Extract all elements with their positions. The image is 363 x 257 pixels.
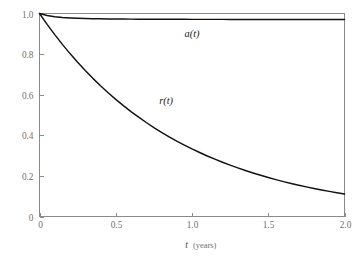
x-tick-label: 2.0	[340, 220, 352, 230]
y-tick-label: 0.6	[22, 91, 34, 101]
chart-background	[0, 0, 363, 257]
curve-label-rt: r(t)	[159, 95, 173, 107]
x-tick-label: 0	[38, 220, 43, 230]
y-tick-label: 1.0	[22, 10, 34, 20]
x-tick-label: 0.5	[111, 220, 123, 230]
y-tick-label: 0.2	[22, 172, 34, 182]
y-tick-label: 0.8	[22, 50, 34, 60]
curve-label-at: a(t)	[184, 28, 200, 40]
chart-figure: 00.20.40.60.81.0 00.51.01.52.0 a(t)r(t) …	[0, 0, 363, 257]
x-axis-unit: (years)	[193, 241, 216, 250]
decay-curves-chart: 00.20.40.60.81.0 00.51.01.52.0 a(t)r(t) …	[0, 0, 363, 257]
x-tick-label: 1.5	[263, 220, 275, 230]
y-tick-label: 0	[29, 213, 34, 223]
y-tick-label: 0.4	[22, 131, 34, 141]
x-axis-variable: t	[185, 239, 188, 250]
x-tick-label: 1.0	[187, 220, 199, 230]
